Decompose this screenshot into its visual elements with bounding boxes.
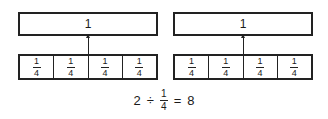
divide-operator: ÷ — [147, 93, 154, 108]
whole-label: 1 — [240, 17, 247, 31]
quotient: 8 — [187, 93, 194, 108]
fraction-cell: 14 — [175, 56, 209, 78]
equals-sign: = — [174, 93, 182, 108]
fraction-cell: 14 — [54, 56, 88, 78]
denominator: 4 — [103, 69, 108, 78]
numerator: 1 — [34, 57, 39, 66]
denominator: 4 — [161, 102, 167, 112]
denominator: 4 — [137, 69, 142, 78]
denominator: 4 — [189, 69, 194, 78]
whole-bar-left: 1 — [18, 12, 158, 36]
numerator: 1 — [223, 57, 228, 66]
dividend: 2 — [133, 93, 140, 108]
fraction-cell: 14 — [209, 56, 243, 78]
divisor-fraction: 14 — [160, 89, 168, 112]
fraction-cell: 14 — [20, 56, 54, 78]
numerator: 1 — [68, 57, 73, 66]
numerator: 1 — [103, 57, 108, 66]
fraction-row-right: 14 14 14 14 — [173, 54, 313, 80]
arrow-icon — [88, 36, 89, 54]
numerator: 1 — [189, 57, 194, 66]
numerator: 1 — [258, 57, 263, 66]
numerator: 1 — [161, 89, 167, 99]
fraction-row-left: 14 14 14 14 — [18, 54, 158, 80]
numerator: 1 — [137, 57, 142, 66]
denominator: 4 — [258, 69, 263, 78]
arrow-icon — [243, 36, 244, 54]
numerator: 1 — [292, 57, 297, 66]
equation: 2 ÷ 14 = 8 — [0, 89, 328, 112]
whole-label: 1 — [85, 17, 92, 31]
fraction-cell: 14 — [89, 56, 123, 78]
denominator: 4 — [34, 69, 39, 78]
fraction-cell: 14 — [278, 56, 311, 78]
whole-bar-right: 1 — [173, 12, 313, 36]
denominator: 4 — [223, 69, 228, 78]
denominator: 4 — [68, 69, 73, 78]
fraction-cell: 14 — [123, 56, 156, 78]
denominator: 4 — [292, 69, 297, 78]
fraction-cell: 14 — [244, 56, 278, 78]
